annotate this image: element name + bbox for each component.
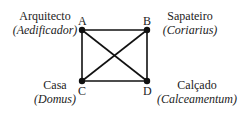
label-d-name: Calçado xyxy=(154,78,240,92)
label-a: Arquitecto (Aedificador) xyxy=(10,9,80,37)
label-b-name: Sapateiro xyxy=(155,9,225,23)
label-a-latin: (Aedificador) xyxy=(13,23,78,37)
node-letter-d: D xyxy=(143,85,152,97)
label-d: Calçado (Calceamentum) xyxy=(154,78,240,106)
label-c: Casa (Domus) xyxy=(30,78,80,106)
label-c-name: Casa xyxy=(30,78,80,92)
label-a-name: Arquitecto xyxy=(10,9,80,23)
label-c-latin: (Domus) xyxy=(34,92,76,106)
label-b-latin: (Coriarius) xyxy=(163,23,218,37)
label-b: Sapateiro (Coriarius) xyxy=(155,9,225,37)
node-letter-b: B xyxy=(143,15,151,27)
label-d-latin: (Calceamentum) xyxy=(157,92,237,106)
